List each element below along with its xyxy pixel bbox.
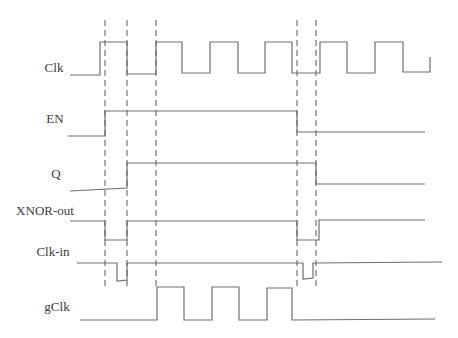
waveforms (68, 42, 442, 320)
waveform-gclk (80, 287, 435, 320)
signal-label-gclk: gClk (44, 299, 69, 315)
timing-diagram: Clk EN Q XNOR-out Clk-in gClk (0, 0, 458, 338)
waveform-clk (70, 42, 430, 75)
waveform-en (68, 111, 425, 136)
waveform-canvas (0, 0, 458, 338)
signal-label-en: EN (46, 111, 63, 127)
signal-label-clk-in: Clk-in (36, 244, 69, 260)
signal-label-clk: Clk (45, 60, 64, 76)
signal-label-xnor-out: XNOR-out (16, 203, 74, 219)
waveform-q (70, 163, 425, 191)
signal-label-q: Q (51, 166, 60, 182)
waveform-clk-in (77, 262, 442, 281)
waveform-xnor-out (70, 220, 425, 240)
